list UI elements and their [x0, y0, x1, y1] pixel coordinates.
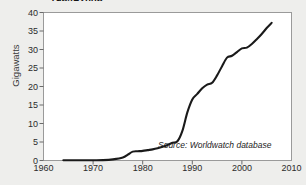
y-tick-marks	[40, 13, 44, 161]
chart-figure: 1964–2006 Gigawatts 0510152025303540 196…	[0, 0, 306, 185]
plot-area	[0, 0, 306, 185]
source-note: Source: Worldwatch database	[158, 140, 271, 150]
plot-frame	[44, 13, 292, 161]
x-tick-marks	[93, 161, 242, 165]
